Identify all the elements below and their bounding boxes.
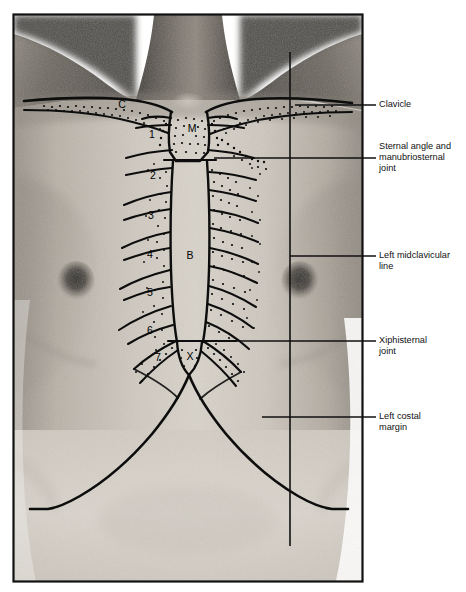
marker-rib-7: 7: [155, 351, 161, 363]
marker-body-b: B: [186, 249, 193, 261]
marker-rib-6: 6: [147, 324, 153, 336]
label-left-midclavicular-line: Left midclavicular line: [379, 250, 453, 271]
right-nipple: [281, 261, 319, 301]
label-clavicle: Clavicle: [379, 99, 411, 109]
label-left-costal-margin: Left costal margin: [379, 411, 423, 432]
label-xiphisternal-joint: Xiphisternal joint: [378, 335, 430, 356]
marker-rib-1: 1: [149, 128, 155, 140]
marker-rib-5: 5: [147, 286, 153, 298]
marker-rib-2: 2: [150, 169, 156, 181]
marker-rib-4: 4: [147, 248, 153, 260]
anatomy-figure: Clavicle Sternal angle and manubriostern…: [0, 0, 466, 592]
marker-xiphoid-x: X: [186, 350, 193, 362]
callout-labels: Clavicle Sternal angle and manubriostern…: [378, 99, 454, 432]
marker-rib-3: 3: [148, 209, 154, 221]
marker-manubrium-m: M: [188, 122, 197, 134]
figure-stage: Clavicle Sternal angle and manubriostern…: [0, 0, 466, 592]
label-sternal-angle: Sternal angle and manubriosternal joint: [378, 141, 454, 173]
left-nipple: [57, 261, 95, 301]
marker-clavicle-c: C: [118, 98, 126, 110]
